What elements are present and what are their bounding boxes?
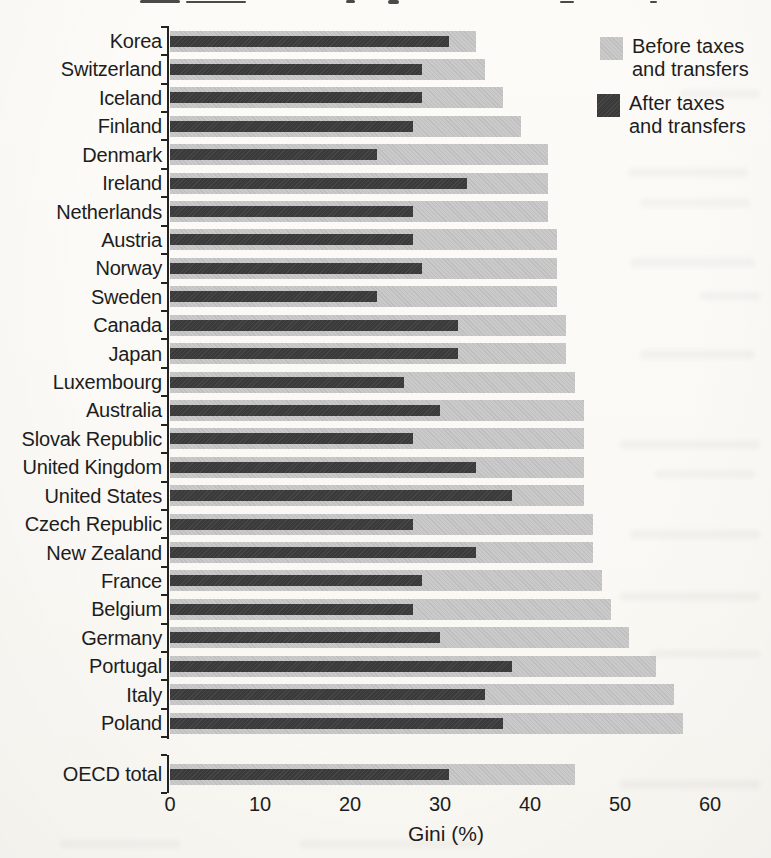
bar-after-taxes bbox=[170, 149, 377, 160]
bar-after-taxes bbox=[170, 178, 467, 189]
bar-after-taxes bbox=[170, 320, 458, 331]
bar-after-taxes bbox=[170, 490, 512, 501]
legend-swatch-before-icon bbox=[600, 37, 623, 60]
category-label: New Zealand bbox=[46, 542, 162, 564]
y-axis-tick bbox=[161, 708, 167, 710]
bleed-through-smudge bbox=[620, 440, 760, 449]
bar-after-taxes bbox=[170, 36, 449, 47]
category-label: France bbox=[101, 570, 162, 592]
x-axis-tick-label: 20 bbox=[325, 793, 375, 816]
bar-after-taxes bbox=[170, 377, 404, 388]
category-label: Finland bbox=[98, 115, 162, 137]
bar-after-taxes bbox=[170, 348, 458, 359]
bar-after-taxes bbox=[170, 92, 422, 103]
cropped-text-sliver bbox=[346, 0, 355, 3]
bar-after-taxes bbox=[170, 604, 413, 615]
legend-label-after: After taxes and transfers bbox=[629, 92, 757, 138]
bleed-through-smudge bbox=[640, 350, 755, 359]
bar-after-taxes bbox=[170, 64, 422, 75]
bleed-through-smudge bbox=[630, 258, 755, 267]
bar-after-taxes bbox=[170, 263, 422, 274]
bar-after-taxes bbox=[170, 405, 440, 416]
bar-after-taxes bbox=[170, 291, 377, 302]
bar-after-taxes bbox=[170, 547, 476, 558]
y-axis-tick bbox=[161, 367, 167, 369]
y-axis-tick bbox=[161, 481, 167, 483]
y-axis-tick bbox=[161, 509, 167, 511]
y-axis-tick bbox=[161, 537, 167, 539]
bar-after-taxes bbox=[170, 206, 413, 217]
y-axis-tick bbox=[161, 225, 167, 227]
category-label: Ireland bbox=[102, 172, 162, 194]
bar-after-taxes bbox=[170, 689, 485, 700]
y-axis-bracket-line bbox=[167, 755, 169, 793]
y-axis-tick bbox=[161, 54, 167, 56]
y-axis-tick bbox=[161, 566, 167, 568]
bar-after-taxes bbox=[170, 121, 413, 132]
x-axis-tick-label: 50 bbox=[595, 793, 645, 816]
y-axis-tick bbox=[161, 310, 167, 312]
x-axis-tick-label: 60 bbox=[685, 793, 735, 816]
cropped-text-sliver bbox=[140, 0, 180, 3]
bleed-through-smudge bbox=[620, 780, 760, 789]
y-axis-tick bbox=[161, 168, 167, 170]
bleed-through-smudge bbox=[620, 592, 760, 601]
category-label: Italy bbox=[126, 684, 162, 706]
category-label: Czech Republic bbox=[25, 513, 162, 535]
bleed-through-smudge bbox=[60, 840, 180, 848]
y-axis-tick bbox=[161, 111, 167, 113]
category-label: Switzerland bbox=[61, 58, 162, 80]
y-axis-tick bbox=[161, 679, 167, 681]
y-axis-tick bbox=[161, 452, 167, 454]
y-axis-tick bbox=[161, 395, 167, 397]
bleed-through-smudge bbox=[655, 470, 755, 478]
bar-after-taxes bbox=[170, 661, 512, 672]
y-axis-tick bbox=[161, 282, 167, 284]
category-label: Australia bbox=[86, 399, 162, 421]
legend-label-before: Before taxes and transfers bbox=[632, 35, 760, 81]
y-axis-tick bbox=[161, 196, 167, 198]
cropped-text-sliver bbox=[186, 1, 246, 3]
cropped-text-sliver bbox=[560, 1, 574, 3]
category-label: United States bbox=[45, 485, 162, 507]
y-axis-tick bbox=[161, 139, 167, 141]
y-axis-bracket-tick bbox=[161, 754, 167, 756]
bar-after-taxes bbox=[170, 462, 476, 473]
bar-after-taxes bbox=[170, 632, 440, 643]
y-axis-tick bbox=[161, 424, 167, 426]
category-label: Netherlands bbox=[56, 201, 162, 223]
category-label: Korea bbox=[110, 30, 162, 52]
y-axis-tick bbox=[161, 338, 167, 340]
y-axis-line bbox=[167, 26, 169, 739]
bleed-through-smudge bbox=[628, 168, 748, 177]
category-label: Luxembourg bbox=[53, 371, 162, 393]
bar-after-taxes bbox=[170, 234, 413, 245]
category-label: Norway bbox=[95, 257, 162, 279]
category-label: Japan bbox=[109, 343, 163, 365]
x-axis-tick-label: 40 bbox=[505, 793, 555, 816]
cropped-text-sliver bbox=[388, 0, 399, 4]
category-label: Denmark bbox=[82, 144, 162, 166]
bar-after-taxes bbox=[170, 433, 413, 444]
x-axis-tick-label: 0 bbox=[145, 793, 195, 816]
bleed-through-smudge bbox=[700, 292, 760, 300]
bleed-through-smudge bbox=[650, 650, 760, 658]
y-axis-tick bbox=[161, 594, 167, 596]
y-axis-tick bbox=[161, 623, 167, 625]
y-axis-tick bbox=[161, 26, 167, 28]
category-label: Slovak Republic bbox=[22, 428, 162, 450]
category-label: United Kingdom bbox=[22, 456, 162, 478]
bar-after-taxes bbox=[170, 718, 503, 729]
category-label: Canada bbox=[93, 314, 162, 336]
category-label: Austria bbox=[101, 229, 162, 251]
cropped-text-sliver bbox=[650, 1, 657, 3]
y-axis-tick bbox=[161, 736, 167, 738]
category-label: Germany bbox=[81, 627, 162, 649]
scanned-book-page: Gini (%) Before taxes and transfers Afte… bbox=[0, 0, 771, 858]
x-axis-tick-label: 10 bbox=[235, 793, 285, 816]
category-label: Portugal bbox=[89, 655, 162, 677]
bleed-through-smudge bbox=[640, 199, 750, 207]
bar-after-taxes bbox=[170, 519, 413, 530]
category-label: Poland bbox=[101, 712, 162, 734]
y-axis-tick bbox=[161, 83, 167, 85]
